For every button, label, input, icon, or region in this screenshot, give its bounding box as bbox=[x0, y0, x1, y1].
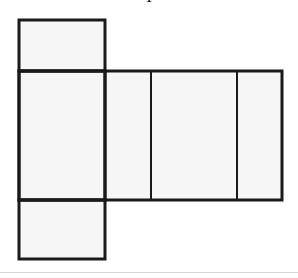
face-left bbox=[19, 71, 105, 200]
box-net-figure bbox=[0, 0, 298, 278]
face-top-flap bbox=[19, 20, 105, 71]
face-back bbox=[237, 71, 282, 200]
face-front bbox=[105, 71, 151, 200]
screenshot-root: I bbox=[0, 0, 298, 278]
bottom-horizontal-rule bbox=[0, 272, 298, 273]
face-right bbox=[151, 71, 237, 200]
face-bottom-flap bbox=[19, 200, 105, 259]
